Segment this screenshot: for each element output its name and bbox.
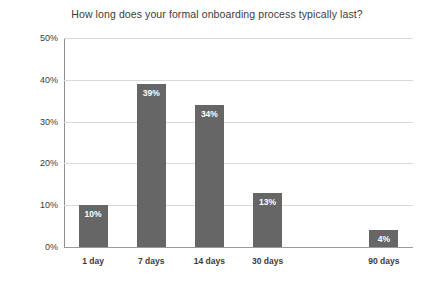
x-axis-tick-label: 90 days <box>368 256 399 266</box>
bar[interactable]: 10% <box>79 205 108 247</box>
y-axis-tick-label: 30% <box>6 117 58 127</box>
y-axis-tick-label: 40% <box>6 75 58 85</box>
x-axis-tick-label: 1 day <box>82 256 104 266</box>
bar-chart: How long does your formal onboarding pro… <box>0 0 434 286</box>
bar-value-label: 34% <box>195 109 224 119</box>
bar-value-label: 10% <box>79 209 108 219</box>
x-axis-tick-label: 30 days <box>252 256 283 266</box>
gridline <box>64 122 413 123</box>
gridline <box>64 247 413 248</box>
x-axis-tick-label: 14 days <box>194 256 225 266</box>
gridline <box>64 163 413 164</box>
chart-title: How long does your formal onboarding pro… <box>0 8 434 20</box>
bar[interactable]: 34% <box>195 105 224 247</box>
gridline <box>64 205 413 206</box>
y-axis-tick-labels: 0%10%20%30%40%50% <box>0 0 58 286</box>
bar-value-label: 39% <box>137 88 166 98</box>
gridline <box>64 80 413 81</box>
y-axis-tick-label: 10% <box>6 200 58 210</box>
y-axis-tick-label: 50% <box>6 33 58 43</box>
bar-value-label: 13% <box>253 197 282 207</box>
bar[interactable]: 4% <box>369 230 398 247</box>
bar[interactable]: 39% <box>137 84 166 247</box>
y-axis-tick-label: 0% <box>6 242 58 252</box>
plot-area: 10%39%34%13%4% <box>64 38 413 247</box>
bar[interactable]: 13% <box>253 193 282 247</box>
x-axis-tick-label: 7 days <box>138 256 164 266</box>
bar-value-label: 4% <box>369 234 398 244</box>
gridline <box>64 38 413 39</box>
y-axis-tick-label: 20% <box>6 158 58 168</box>
